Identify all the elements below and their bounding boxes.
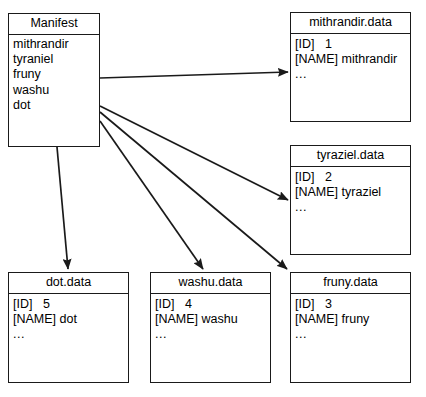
record-name-row: [NAME] dot — [13, 312, 128, 327]
record-more: ... — [13, 327, 128, 342]
node-fruny-data-body: [ID] 3 [NAME] fruny ... — [291, 294, 410, 343]
manifest-entry: dot — [13, 98, 99, 113]
id-label: [ID] — [295, 297, 314, 311]
edge-manifest-to-dot — [57, 147, 68, 269]
id-label: [ID] — [13, 297, 32, 311]
record-name-row: [NAME] washu — [155, 312, 270, 327]
record-more: ... — [155, 327, 270, 342]
id-value: 2 — [325, 170, 332, 184]
manifest-entry: washu — [13, 83, 99, 98]
name-value: fruny — [342, 312, 370, 326]
record-name-row: [NAME] fruny — [295, 312, 410, 327]
name-label: [NAME] — [295, 185, 338, 199]
record-more: ... — [295, 67, 410, 82]
record-id-row: [ID] 3 — [295, 297, 410, 312]
edge-manifest-to-fruny — [100, 112, 287, 269]
id-label: [ID] — [155, 297, 174, 311]
edge-manifest-to-tyraziel — [100, 106, 288, 200]
name-label: [NAME] — [295, 312, 338, 326]
node-fruny-data-title: fruny.data — [291, 273, 410, 294]
name-value: tyraziel — [342, 185, 382, 199]
node-mithrandir-data[interactable]: mithrandir.data [ID] 1 [NAME] mithrandir… — [290, 12, 411, 122]
record-id-row: [ID] 1 — [295, 37, 410, 52]
manifest-entry: tyraniel — [13, 52, 99, 67]
node-washu-data[interactable]: washu.data [ID] 4 [NAME] washu ... — [150, 272, 271, 383]
id-label: [ID] — [295, 37, 314, 51]
manifest-entry: mithrandir — [13, 37, 99, 52]
node-dot-data[interactable]: dot.data [ID] 5 [NAME] dot ... — [8, 272, 129, 383]
node-tyraziel-data-title: tyraziel.data — [291, 146, 410, 167]
edge-manifest-to-washu — [100, 121, 203, 269]
record-name-row: [NAME] tyraziel — [295, 185, 410, 200]
record-id-row: [ID] 2 — [295, 170, 410, 185]
node-washu-data-body: [ID] 4 [NAME] washu ... — [151, 294, 270, 343]
node-manifest-entries: mithrandir tyraniel fruny washu dot — [9, 35, 99, 113]
node-dot-data-title: dot.data — [9, 273, 128, 294]
diagram-canvas: Manifest mithrandir tyraniel fruny washu… — [0, 0, 426, 397]
node-mithrandir-data-title: mithrandir.data — [291, 13, 410, 34]
id-value: 5 — [43, 297, 50, 311]
record-id-row: [ID] 4 — [155, 297, 270, 312]
node-manifest-title: Manifest — [9, 14, 99, 35]
id-value: 4 — [185, 297, 192, 311]
id-label: [ID] — [295, 170, 314, 184]
node-washu-data-title: washu.data — [151, 273, 270, 294]
node-manifest[interactable]: Manifest mithrandir tyraniel fruny washu… — [8, 13, 100, 147]
manifest-entry: fruny — [13, 67, 99, 82]
node-tyraziel-data[interactable]: tyraziel.data [ID] 2 [NAME] tyraziel ... — [290, 145, 411, 255]
record-more: ... — [295, 200, 410, 215]
node-tyraziel-data-body: [ID] 2 [NAME] tyraziel ... — [291, 167, 410, 216]
name-label: [NAME] — [13, 312, 56, 326]
id-value: 1 — [325, 37, 332, 51]
record-name-row: [NAME] mithrandir — [295, 52, 410, 67]
name-value: washu — [202, 312, 238, 326]
name-label: [NAME] — [155, 312, 198, 326]
node-mithrandir-data-body: [ID] 1 [NAME] mithrandir ... — [291, 34, 410, 83]
record-id-row: [ID] 5 — [13, 297, 128, 312]
name-value: dot — [60, 312, 77, 326]
edge-manifest-to-mithrandir — [100, 72, 288, 78]
id-value: 3 — [325, 297, 332, 311]
node-dot-data-body: [ID] 5 [NAME] dot ... — [9, 294, 128, 343]
name-label: [NAME] — [295, 52, 338, 66]
node-fruny-data[interactable]: fruny.data [ID] 3 [NAME] fruny ... — [290, 272, 411, 383]
record-more: ... — [295, 327, 410, 342]
name-value: mithrandir — [342, 52, 398, 66]
